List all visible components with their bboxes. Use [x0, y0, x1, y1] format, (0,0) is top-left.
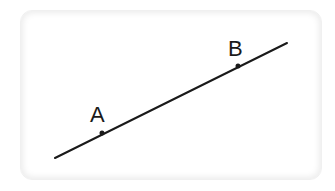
point-a-dot [100, 131, 105, 136]
diagram-stage: A B [0, 0, 335, 191]
line-ab [55, 43, 287, 158]
point-b-label: B [228, 36, 243, 61]
point-b-dot [236, 64, 241, 69]
point-a-label: A [90, 102, 105, 127]
line-diagram: A B [0, 0, 335, 191]
